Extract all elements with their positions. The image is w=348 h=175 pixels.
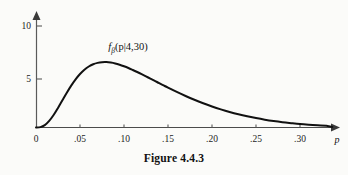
- curve-label: fβ(p|4,30): [108, 41, 148, 55]
- x-tick-label-0: 0: [34, 134, 39, 144]
- y-tick-label-5: 5: [26, 74, 31, 84]
- beta-density-plot: 0 .05 .10 .15 .20 .25 .30 5 10 p fβ(p|4,…: [0, 0, 348, 175]
- y-axis-arrow-icon: [33, 11, 41, 20]
- curve-label-args: (p|4,30): [115, 41, 148, 53]
- x-tick-label-020: .20: [206, 134, 218, 144]
- x-tick-label-030: .30: [294, 134, 306, 144]
- x-tick-label-015: .15: [162, 134, 174, 144]
- x-axis-name-label: p: [334, 134, 340, 145]
- x-tick-label-010: .10: [118, 134, 130, 144]
- density-curve: [36, 62, 332, 127]
- figure-container: 0 .05 .10 .15 .20 .25 .30 5 10 p fβ(p|4,…: [0, 0, 348, 175]
- y-tick-label-10: 10: [22, 21, 32, 31]
- figure-caption: Figure 4.4.3: [0, 152, 348, 164]
- x-tick-label-005: .05: [74, 134, 86, 144]
- x-tick-label-025: .25: [250, 134, 262, 144]
